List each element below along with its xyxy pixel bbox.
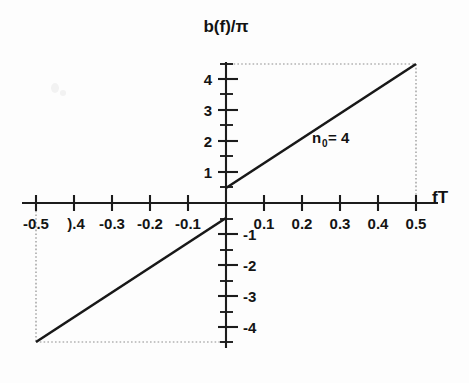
- data-segment-positive: [226, 64, 416, 188]
- x-tick-label: -0.1: [175, 215, 201, 232]
- x-tick-label: -0.3: [99, 215, 125, 232]
- y-tick-label: -2: [243, 257, 256, 274]
- y-axis-title: b(f)/π: [203, 17, 248, 36]
- figure-container: -0.5 ).4 -0.3 -0.2 -0.1 0.1 0.2 0.3 0.4 …: [0, 0, 469, 383]
- y-tick-label: -3: [243, 288, 256, 305]
- series-annotation: n 0 = 4: [312, 129, 350, 149]
- y-tick-label: 3: [204, 102, 212, 119]
- x-tick-label: 0.5: [406, 215, 427, 232]
- x-tick-label: 0.2: [292, 215, 313, 232]
- x-tick-label: 0.4: [368, 215, 390, 232]
- y-tick-label: 1: [204, 164, 212, 181]
- y-tick-label: 2: [204, 133, 212, 150]
- y-tick-label: 4: [204, 71, 213, 88]
- y-tick-label: -1: [243, 226, 256, 243]
- annotation-rest: = 4: [328, 129, 350, 146]
- x-tick-label: -0.2: [137, 215, 163, 232]
- x-tick-label: 0.1: [254, 215, 275, 232]
- scan-artifact: [51, 83, 66, 96]
- x-axis: [22, 195, 438, 211]
- y-tick-label: -4: [243, 319, 257, 336]
- x-tick-label-degraded: ).4: [67, 215, 85, 232]
- x-axis-title: fT: [432, 188, 449, 207]
- x-tick-label: 0.3: [330, 215, 351, 232]
- data-segment-negative: [36, 218, 226, 342]
- y-axis: [218, 62, 238, 348]
- annotation-base: n: [312, 129, 321, 146]
- phase-plot: -0.5 ).4 -0.3 -0.2 -0.1 0.1 0.2 0.3 0.4 …: [0, 0, 469, 383]
- x-tick-label: -0.5: [23, 215, 49, 232]
